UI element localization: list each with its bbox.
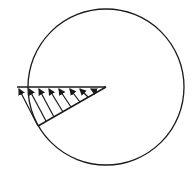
arrow-icon [29, 89, 46, 121]
distribution-diagram [0, 0, 195, 185]
arrow-icon [91, 89, 97, 92]
arrow-icon [70, 89, 80, 102]
arrow-icon [59, 89, 71, 107]
arrow-icon [80, 89, 88, 97]
